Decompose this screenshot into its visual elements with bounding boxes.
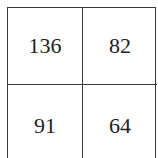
grid-cell: 136 — [8, 8, 83, 85]
grid-cell: 82 — [83, 8, 157, 85]
grid-cell: 91 — [8, 85, 83, 158]
number-grid: 136 82 91 64 — [7, 7, 156, 158]
grid-cell: 64 — [83, 85, 157, 158]
